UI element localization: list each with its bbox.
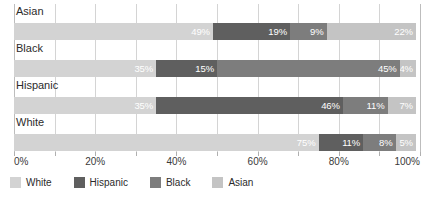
segment-value-label: 35% xyxy=(134,63,156,74)
legend-item[interactable]: White xyxy=(10,177,52,188)
category-band: Asian49%19%9%22% xyxy=(14,4,420,41)
bar-segment[interactable]: 19% xyxy=(213,23,290,40)
x-tick-mark xyxy=(298,152,299,156)
bar-segment[interactable]: 22% xyxy=(327,23,416,40)
bar-segment[interactable]: 9% xyxy=(290,23,327,40)
category-label: Asian xyxy=(16,4,44,18)
bar-segment[interactable]: 8% xyxy=(363,134,395,151)
segment-value-label: 22% xyxy=(394,26,416,37)
x-tick-label: 0% xyxy=(14,156,28,167)
bar-segment[interactable]: 46% xyxy=(156,97,343,114)
category-label: White xyxy=(16,115,44,129)
plot-area: Asian49%19%9%22%Black35%15%45%4%Hispanic… xyxy=(14,4,420,152)
segment-value-label: 9% xyxy=(310,26,327,37)
x-tick-label: 20% xyxy=(85,156,105,167)
category-label: Black xyxy=(16,41,43,55)
segment-value-label: 11% xyxy=(342,137,363,148)
segment-value-label: 8% xyxy=(379,137,396,148)
category-band: White75%11%8%5% xyxy=(14,115,420,152)
bar-segment[interactable]: 4% xyxy=(400,60,416,77)
x-tick-mark xyxy=(217,152,218,156)
x-axis: 0%20%40%60%80%100% xyxy=(14,152,420,170)
legend-item[interactable]: Asian xyxy=(212,177,253,188)
bar-segment[interactable]: 45% xyxy=(217,60,400,77)
segment-value-label: 15% xyxy=(195,63,217,74)
legend-swatch-icon xyxy=(74,177,85,188)
x-tick-label: 40% xyxy=(166,156,186,167)
legend-label: Asian xyxy=(228,177,253,188)
segment-value-label: 75% xyxy=(297,137,319,148)
legend-item[interactable]: Hispanic xyxy=(74,177,128,188)
gridline xyxy=(420,4,421,152)
chart-legend: WhiteHispanicBlackAsian xyxy=(10,177,275,188)
segment-value-label: 4% xyxy=(400,63,416,74)
bar-segment[interactable]: 7% xyxy=(388,97,416,114)
segment-value-label: 19% xyxy=(268,26,290,37)
x-tick-mark xyxy=(136,152,137,156)
stacked-bar[interactable]: 49%19%9%22% xyxy=(14,23,420,40)
x-tick-mark xyxy=(379,152,380,156)
segment-value-label: 35% xyxy=(134,100,156,111)
legend-swatch-icon xyxy=(150,177,161,188)
segment-value-label: 49% xyxy=(191,26,213,37)
x-tick-mark xyxy=(55,152,56,156)
bar-segment[interactable]: 75% xyxy=(14,134,319,151)
stacked-bar[interactable]: 75%11%8%5% xyxy=(14,134,420,151)
stacked-bar-chart: Asian49%19%9%22%Black35%15%45%4%Hispanic… xyxy=(0,0,434,204)
legend-swatch-icon xyxy=(212,177,223,188)
legend-label: Black xyxy=(166,177,190,188)
legend-swatch-icon xyxy=(10,177,21,188)
category-band: Hispanic35%46%11%7% xyxy=(14,78,420,115)
segment-value-label: 46% xyxy=(321,100,343,111)
category-label: Hispanic xyxy=(16,78,58,92)
bar-segment[interactable]: 49% xyxy=(14,23,213,40)
segment-value-label: 5% xyxy=(399,137,416,148)
legend-label: Hispanic xyxy=(90,177,128,188)
bar-segment[interactable]: 35% xyxy=(14,60,156,77)
x-tick-label: 80% xyxy=(329,156,349,167)
bar-segment[interactable]: 11% xyxy=(343,97,388,114)
segment-value-label: 7% xyxy=(399,100,416,111)
segment-value-label: 11% xyxy=(367,100,388,111)
bar-segment[interactable]: 5% xyxy=(396,134,416,151)
bar-segment[interactable]: 35% xyxy=(14,97,156,114)
legend-item[interactable]: Black xyxy=(150,177,190,188)
category-band: Black35%15%45%4% xyxy=(14,41,420,78)
stacked-bar[interactable]: 35%46%11%7% xyxy=(14,97,420,114)
legend-label: White xyxy=(26,177,52,188)
bar-segment[interactable]: 11% xyxy=(319,134,364,151)
x-tick-label: 60% xyxy=(248,156,268,167)
stacked-bar[interactable]: 35%15%45%4% xyxy=(14,60,420,77)
x-tick-label: 100% xyxy=(394,156,420,167)
bar-segment[interactable]: 15% xyxy=(156,60,217,77)
segment-value-label: 45% xyxy=(378,63,400,74)
